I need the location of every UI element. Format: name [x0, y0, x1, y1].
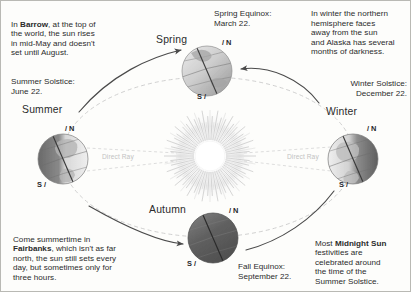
pole-label-spring-north: / N [222, 39, 231, 47]
event-spring-equinox: Spring Equinox: March 22. [214, 9, 314, 28]
annotation-midnight-sun-bold: Midnight Sun [335, 239, 387, 248]
earth-autumn [188, 213, 238, 263]
pole-label-summer-south: S / [37, 181, 46, 189]
annotation-midnight-sun-prefix: Most [315, 239, 335, 248]
annotation-midnight-sun-suffix: festivities are celebrated around the ti… [315, 248, 381, 286]
season-label-spring: Spring [156, 34, 187, 45]
seasons-diagram: In Barrow, at the top of the world, the … [0, 0, 411, 292]
annotation-barrow: In Barrow, at the top of the world, the … [11, 10, 135, 58]
annotation-winter-hemisphere: In winter the northern hemisphere faces … [311, 9, 409, 57]
annotation-barrow-prefix: In [11, 20, 20, 29]
pole-label-summer-north: / N [65, 125, 74, 133]
season-label-winter: Winter [326, 106, 357, 117]
earth-winter [328, 134, 378, 184]
annotation-barrow-bold: Barrow [20, 20, 48, 29]
annotation-midnight-sun: Most Midnight Sun festivities are celebr… [315, 229, 409, 287]
annotation-fairbanks-prefix: Come summertime in [13, 235, 90, 244]
annotation-fairbanks-bold: Fairbanks [13, 244, 51, 253]
sun [162, 108, 258, 204]
direct-ray-label-left: Direct Ray [102, 153, 134, 160]
pole-label-autumn-north: / N [229, 207, 238, 215]
season-label-summer: Summer [22, 104, 62, 115]
event-winter-solstice: Winter Solstice: December 22. [301, 79, 407, 98]
pole-label-autumn-south: S / [187, 260, 196, 268]
annotation-fairbanks: Come summertime in Fairbanks, which isn'… [13, 225, 165, 283]
season-label-autumn: Autumn [149, 204, 186, 215]
event-summer-solstice: Summer Solstice: June 22. [11, 77, 121, 96]
pole-label-winter-south: S / [339, 181, 348, 189]
pole-label-spring-south: S / [197, 93, 206, 101]
pole-label-winter-north: / N [367, 125, 376, 133]
earth-summer [38, 134, 88, 184]
direct-ray-label-right: Direct Ray [287, 153, 319, 160]
earth-spring [182, 46, 232, 96]
